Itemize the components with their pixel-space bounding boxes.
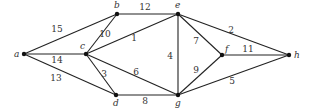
edge-weight-c-e: 1 bbox=[131, 33, 137, 43]
node-label-b: b bbox=[114, 0, 120, 10]
node-label-d: d bbox=[113, 98, 119, 108]
edge-weight-d-g: 8 bbox=[142, 96, 148, 106]
node-label-a: a bbox=[14, 49, 19, 59]
node-c bbox=[84, 52, 88, 56]
node-label-g: g bbox=[175, 98, 181, 108]
node-label-f: f bbox=[224, 44, 230, 54]
edge-weight-b-c: 10 bbox=[99, 29, 111, 39]
edge-weight-e-h: 2 bbox=[228, 25, 234, 35]
edge-weight-e-g: 4 bbox=[167, 51, 173, 61]
graph-edges bbox=[24, 14, 289, 95]
edge-e-f bbox=[178, 14, 222, 55]
node-label-e: e bbox=[175, 0, 180, 10]
node-g bbox=[176, 93, 180, 97]
node-label-c: c bbox=[80, 41, 85, 51]
edge-weight-a-b: 15 bbox=[51, 24, 63, 34]
edge-weight-b-e: 12 bbox=[139, 2, 150, 12]
node-b bbox=[115, 12, 119, 16]
edge-f-g bbox=[178, 55, 222, 95]
node-a bbox=[22, 52, 26, 56]
node-h bbox=[287, 53, 291, 57]
weighted-graph-diagram: 151413101213684721195 abcdefgh bbox=[0, 0, 312, 110]
node-d bbox=[114, 93, 118, 97]
edge-c-g bbox=[86, 54, 178, 95]
edge-weight-f-h: 11 bbox=[242, 44, 253, 54]
node-label-h: h bbox=[294, 50, 300, 60]
edge-weight-a-d: 13 bbox=[50, 73, 62, 83]
edge-weight-c-d: 3 bbox=[101, 69, 107, 79]
edge-weight-f-g: 9 bbox=[193, 65, 199, 75]
edge-weight-e-f: 7 bbox=[193, 36, 199, 46]
edge-g-h bbox=[178, 55, 289, 95]
node-e bbox=[176, 12, 180, 16]
edge-weight-c-g: 6 bbox=[133, 67, 139, 77]
node-f bbox=[220, 53, 224, 57]
edge-weight-g-h: 5 bbox=[229, 76, 235, 86]
edge-weight-a-c: 14 bbox=[51, 55, 63, 65]
